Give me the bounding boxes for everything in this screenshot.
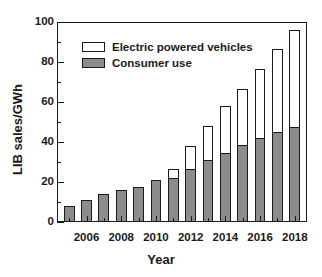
bar-segment-consumer-use: [255, 138, 266, 222]
x-axis-tick: [295, 216, 296, 222]
bar-segment-consumer-use: [168, 178, 179, 222]
x-axis-minor-tick: [243, 218, 244, 222]
bar-group: [272, 22, 283, 222]
y-axis-minor-tick: [57, 122, 61, 123]
bar-segment-consumer-use: [272, 132, 283, 222]
x-axis-minor-tick: [104, 218, 105, 222]
x-axis-tick: [191, 216, 192, 222]
y-axis-tick: [57, 62, 64, 63]
x-axis-tick: [225, 216, 226, 222]
x-axis-tick-label: 2008: [108, 231, 134, 243]
y-axis-title: LIB sales/GWh: [10, 50, 25, 210]
x-axis-tick: [121, 216, 122, 222]
legend-label: Consumer use: [112, 57, 192, 69]
y-axis-minor-tick: [57, 82, 61, 83]
y-axis-minor-tick: [57, 42, 61, 43]
bar-segment-consumer-use: [237, 145, 248, 222]
bar-segment-consumer-use: [220, 153, 231, 222]
y-axis-tick-label: 80: [41, 56, 54, 67]
x-axis-minor-tick: [208, 218, 209, 222]
x-axis-minor-tick: [139, 218, 140, 222]
x-axis-minor-tick: [277, 218, 278, 222]
y-axis-tick: [57, 182, 64, 183]
y-axis-tick: [57, 102, 64, 103]
y-axis-tick: [57, 22, 64, 23]
x-axis-tick-label: 2016: [247, 231, 273, 243]
y-axis-tick-label: 100: [35, 16, 54, 27]
y-axis-tick-label: 20: [41, 176, 54, 187]
bar-group: [64, 22, 75, 222]
x-axis-tick-label: 2006: [74, 231, 100, 243]
y-axis-tick-label: 60: [41, 96, 54, 107]
legend-swatch-filled-icon: [82, 58, 105, 68]
x-axis-tick-label: 2018: [282, 231, 308, 243]
y-axis-tick: [57, 222, 64, 223]
legend-item-consumer-use: Consumer use: [82, 56, 262, 70]
x-axis-minor-tick: [69, 218, 70, 222]
y-axis-tick-label: 40: [41, 136, 54, 147]
x-axis-minor-tick: [173, 218, 174, 222]
y-axis-minor-tick: [57, 162, 61, 163]
legend-label: Electric powered vehicles: [112, 41, 253, 53]
y-axis-tick: [57, 142, 64, 143]
x-axis-tick-label: 2014: [213, 231, 239, 243]
legend-item-electric-powered-vehicles: Electric powered vehicles: [82, 40, 262, 54]
bar-group: [289, 22, 300, 222]
chart-figure: 0204060801002006200820102012201420162018…: [0, 0, 322, 277]
x-axis-tick: [156, 216, 157, 222]
chart-legend: Electric powered vehicles Consumer use: [82, 40, 262, 72]
x-axis-tick-label: 2010: [143, 231, 169, 243]
bar-segment-consumer-use: [185, 169, 196, 222]
y-axis-minor-tick: [57, 202, 61, 203]
legend-swatch-hollow-icon: [82, 42, 105, 52]
x-axis-title: Year: [0, 252, 322, 267]
bar-segment-consumer-use: [133, 187, 144, 222]
x-axis-tick-label: 2012: [178, 231, 204, 243]
y-axis-tick-label: 0: [48, 216, 54, 227]
bar-segment-consumer-use: [203, 160, 214, 222]
bar-segment-consumer-use: [289, 127, 300, 222]
x-axis-tick: [260, 216, 261, 222]
x-axis-tick: [87, 216, 88, 222]
